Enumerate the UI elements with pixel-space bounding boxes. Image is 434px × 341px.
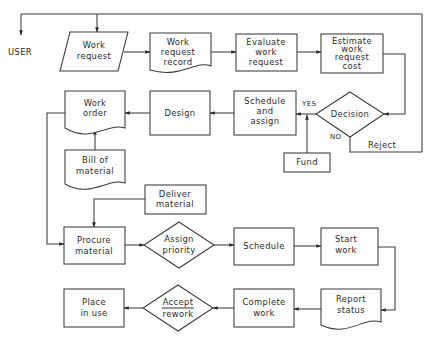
svg-text:request: request [161,47,196,57]
svg-text:Evaluate: Evaluate [246,37,285,47]
svg-text:request: request [249,57,284,67]
node-estimate-work-request-cost: Estimate work request cost [321,34,383,73]
svg-text:Work: Work [84,98,107,108]
flowchart-canvas: USER Work request Work request record Ev… [0,0,434,341]
svg-text:Report: Report [336,294,366,304]
svg-text:Place: Place [82,297,106,307]
node-bill-of-material: Bill of material [65,150,125,189]
node-accept-rework: Accept rework [143,285,213,331]
arrow-deliver-to-procure [94,199,145,227]
svg-text:Bill of: Bill of [82,155,109,165]
svg-text:in use: in use [80,308,107,318]
node-schedule: Schedule [234,228,294,265]
svg-text:work: work [335,245,357,255]
svg-text:Schedule: Schedule [243,241,284,251]
arrow-estimate-to-decision [383,54,405,114]
node-fund: Fund [284,153,330,172]
svg-text:order: order [83,108,107,118]
svg-text:assign: assign [251,116,280,126]
svg-text:record: record [164,57,193,67]
svg-text:Complete: Complete [242,297,285,307]
svg-text:work: work [253,308,275,318]
node-assign-priority: Assign priority [144,222,214,268]
svg-text:Schedule: Schedule [244,96,285,106]
user-label: USER [8,47,32,57]
node-decision: Decision [316,92,384,137]
svg-text:Work: Work [167,37,190,47]
svg-text:Design: Design [164,108,195,118]
yes-label: YES [301,100,316,108]
node-procure-material: Procure material [64,227,125,264]
reject-label: Reject [368,140,396,150]
node-work-order: Work order [65,91,125,134]
node-schedule-and-assign: Schedule and assign [234,91,296,135]
node-complete-work: Complete work [234,289,294,327]
svg-text:priority: priority [162,245,195,255]
svg-text:material: material [75,246,113,256]
svg-text:Start: Start [335,234,358,244]
svg-text:Fund: Fund [296,157,318,167]
svg-text:Work: Work [83,40,106,50]
svg-text:request: request [77,51,112,61]
svg-text:Procure: Procure [77,235,111,245]
svg-text:cost: cost [343,61,362,71]
node-start-work: Start work [321,228,378,265]
svg-text:material: material [156,199,194,209]
svg-text:work: work [255,47,277,57]
node-deliver-material: Deliver material [145,185,206,214]
node-report-status: Report status [321,289,381,329]
svg-text:Accept: Accept [163,297,194,307]
svg-text:material: material [76,166,114,176]
node-place-in-use: Place in use [64,289,124,327]
node-evaluate-work-request: Evaluate work request [236,34,297,71]
svg-text:rework: rework [163,309,194,319]
node-work-request: Work request [60,32,128,71]
svg-text:and: and [257,106,274,116]
svg-text:status: status [337,305,365,315]
svg-text:Decision: Decision [331,109,369,119]
node-design: Design [150,91,210,135]
svg-text:Deliver: Deliver [159,189,191,199]
arrow-work-order-to-procure [47,113,65,244]
svg-text:Assign: Assign [164,234,194,244]
node-work-request-record: Work request record [150,33,211,72]
no-label: NO [330,133,342,141]
